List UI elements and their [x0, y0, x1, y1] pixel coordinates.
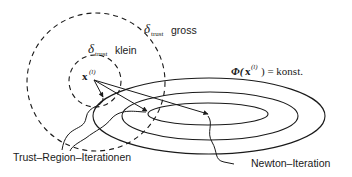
svg-text:Φ(: Φ( — [231, 65, 245, 78]
leader-line-trust-small — [62, 98, 103, 150]
label-contour-constant: Φ( x (l) ) = konst. — [231, 63, 303, 78]
svg-text:δ: δ — [88, 41, 95, 56]
label-trust-region-iterations: Trust–Region–Iterationen — [13, 151, 131, 163]
svg-text:trust: trust — [151, 30, 164, 38]
svg-text:δ: δ — [144, 21, 151, 36]
label-delta-trust-klein: δ trust klein — [88, 41, 137, 58]
svg-text:gross: gross — [171, 24, 197, 36]
newton-step-arrow — [94, 80, 208, 114]
svg-text:x: x — [82, 70, 88, 82]
svg-text:) = konst.: ) = konst. — [261, 65, 303, 78]
svg-text:(l): (l) — [89, 68, 96, 76]
label-newton-iteration: Newton–Iteration — [251, 157, 331, 169]
label-delta-trust-gross: δ trust gross — [144, 21, 197, 38]
svg-text:klein: klein — [115, 44, 137, 56]
svg-text:(l): (l) — [251, 63, 258, 71]
trust-region-diagram: δ trust gross δ trust klein x (l) Φ( x (… — [0, 0, 352, 177]
svg-text:trust: trust — [95, 50, 108, 58]
contour-ellipse-outer — [93, 78, 325, 154]
